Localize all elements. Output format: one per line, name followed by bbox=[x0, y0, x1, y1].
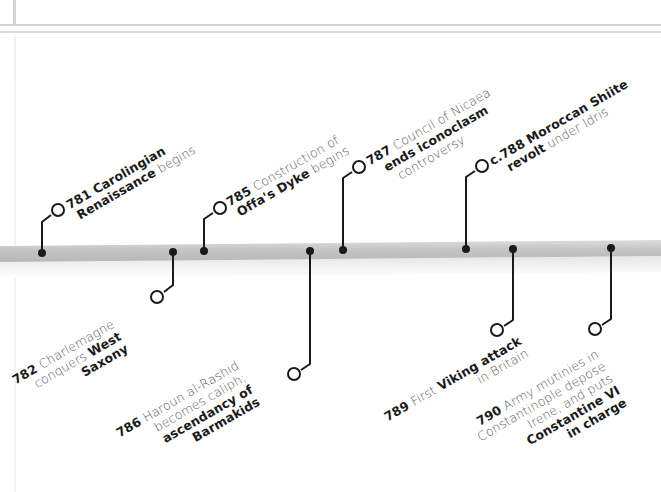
event-dot-781 bbox=[38, 249, 46, 257]
event-dot-786 bbox=[306, 247, 314, 255]
event-dot-782 bbox=[169, 248, 177, 256]
event-connector-788 bbox=[466, 160, 488, 249]
event-dot-789 bbox=[509, 245, 517, 253]
event-dot-788 bbox=[462, 245, 470, 253]
event-connector-785 bbox=[204, 202, 226, 251]
timeline-diagram: 781 Carolingian Renaissance begins 785 C… bbox=[0, 0, 661, 492]
event-dot-787 bbox=[339, 246, 347, 254]
event-dot-790 bbox=[607, 244, 615, 252]
event-dot-785 bbox=[200, 247, 208, 255]
event-connector-787 bbox=[343, 161, 365, 250]
